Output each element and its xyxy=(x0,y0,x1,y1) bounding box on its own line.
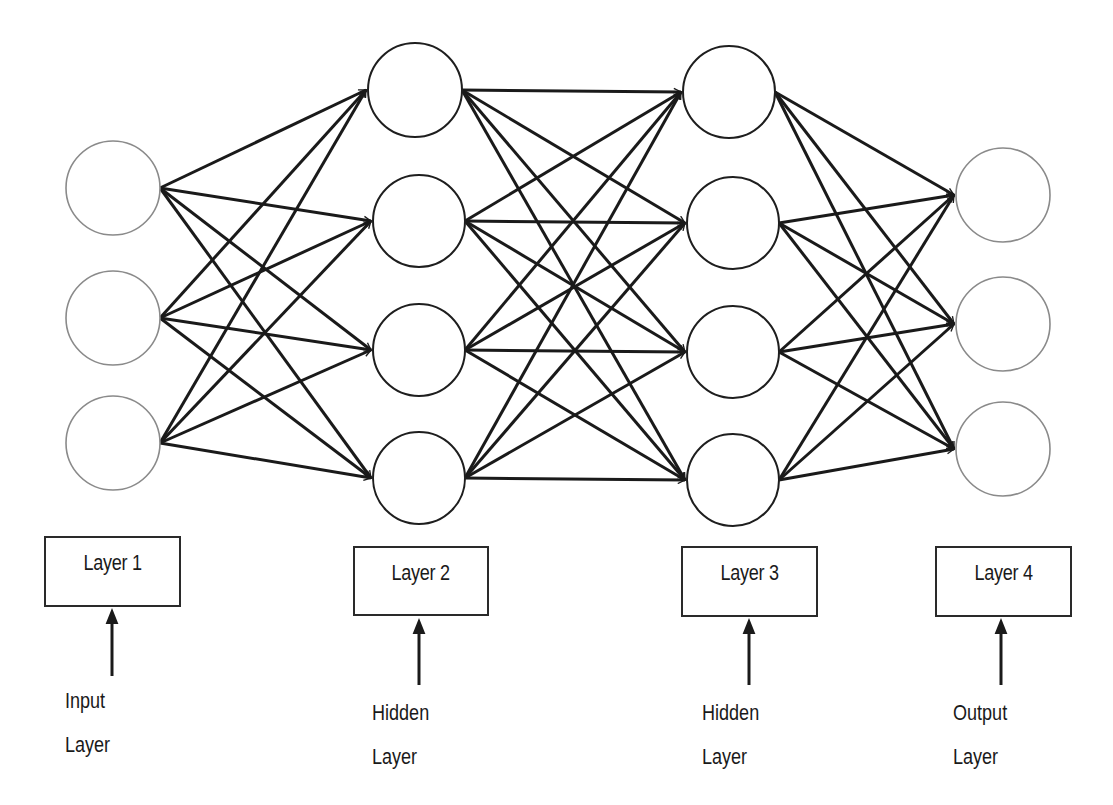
caption-output-line1: Output xyxy=(953,691,1007,735)
caption-input-line2: Layer xyxy=(65,723,110,767)
caption-hidden-layer-3: Hidden Layer xyxy=(702,691,759,779)
caption-pointer-arrows xyxy=(112,616,1001,685)
edge-l1n3-to-l2n1 xyxy=(160,90,366,443)
output-node-1 xyxy=(956,148,1050,242)
hidden2-node-4 xyxy=(687,434,779,526)
caption-hidden3-line1: Hidden xyxy=(702,691,759,735)
neuron-nodes xyxy=(66,43,1050,526)
layer-box-2: Layer 2 xyxy=(353,546,489,616)
output-node-2 xyxy=(956,277,1050,371)
layer-box-3: Layer 3 xyxy=(681,546,818,617)
hidden1-node-2 xyxy=(373,175,465,267)
edge-l2n1-to-l3n1 xyxy=(462,90,681,92)
edge-l2n4-to-l3n4 xyxy=(465,478,685,480)
layer-box-3-label: Layer 3 xyxy=(720,560,778,586)
input-node-1 xyxy=(66,141,160,235)
hidden1-node-3 xyxy=(373,304,465,396)
edge-l1n3-to-l2n3 xyxy=(160,350,371,443)
input-node-3 xyxy=(66,396,160,490)
layer-box-4-label: Layer 4 xyxy=(974,560,1032,586)
input-node-2 xyxy=(66,271,160,365)
output-node-3 xyxy=(956,402,1050,496)
hidden2-node-2 xyxy=(687,177,779,269)
caption-input-layer: Input Layer xyxy=(65,679,110,767)
neural-network-diagram xyxy=(0,0,1113,805)
layer-box-4: Layer 4 xyxy=(935,546,1072,617)
caption-hidden2-line1: Hidden xyxy=(372,691,429,735)
edge-l1n1-to-l2n1 xyxy=(160,90,366,188)
edge-l1n1-to-l2n2 xyxy=(160,188,371,221)
caption-hidden3-line2: Layer xyxy=(702,735,759,779)
caption-input-line1: Input xyxy=(65,679,110,723)
layer-box-1-label: Layer 1 xyxy=(83,550,141,576)
edge-l3n1-to-l4n3 xyxy=(775,92,954,449)
caption-hidden-layer-2: Hidden Layer xyxy=(372,691,429,779)
caption-output-line2: Layer xyxy=(953,735,1007,779)
edge-l3n4-to-l4n3 xyxy=(779,449,954,480)
hidden2-node-3 xyxy=(687,306,779,398)
hidden1-node-4 xyxy=(373,432,465,524)
caption-hidden2-line2: Layer xyxy=(372,735,429,779)
hidden2-node-1 xyxy=(683,46,775,138)
edge-l1n3-to-l2n2 xyxy=(160,221,371,443)
edge-l2n2-to-l3n2 xyxy=(465,221,685,223)
hidden1-node-1 xyxy=(368,43,462,137)
connection-edges xyxy=(160,90,954,480)
layer-box-1: Layer 1 xyxy=(44,536,181,607)
edge-l1n2-to-l2n2 xyxy=(160,221,371,318)
caption-output-layer: Output Layer xyxy=(953,691,1007,779)
edge-l1n3-to-l2n4 xyxy=(160,443,371,478)
edge-l1n2-to-l2n1 xyxy=(160,90,366,318)
layer-box-2-label: Layer 2 xyxy=(392,560,450,586)
